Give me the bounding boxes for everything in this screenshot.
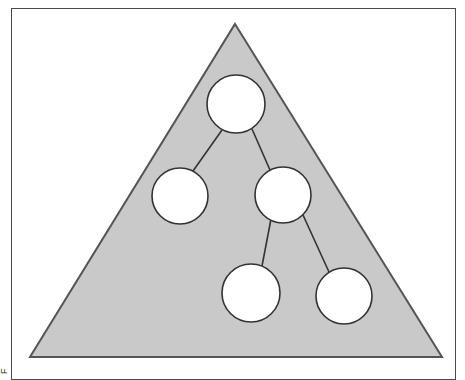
tree-node-n1[interactable] <box>207 75 265 133</box>
tree-node-n5[interactable] <box>316 268 372 324</box>
tree-node-n4[interactable] <box>222 264 280 322</box>
node-circle-n5[interactable] <box>316 268 372 324</box>
node-circle-n4[interactable] <box>222 264 280 322</box>
node-circle-n2[interactable] <box>152 168 208 224</box>
diagram-canvas <box>12 9 455 374</box>
node-circle-n1[interactable] <box>207 75 265 133</box>
tree-node-n2[interactable] <box>152 168 208 224</box>
node-circle-n3[interactable] <box>255 167 311 223</box>
tree-node-n3[interactable] <box>255 167 311 223</box>
